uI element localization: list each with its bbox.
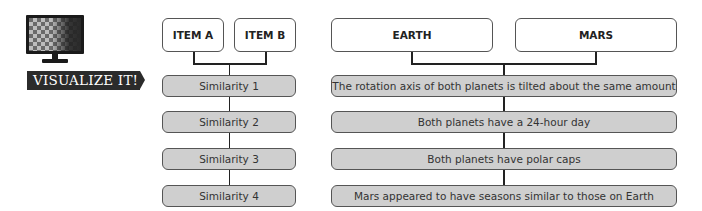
similarity-box: Similarity 2 [162, 111, 296, 133]
monitor-base [42, 59, 68, 63]
visualize-it-banner: VISUALIZE IT! [27, 71, 140, 90]
item-a-box: ITEM A [162, 18, 224, 52]
earth-mars-similarity: Both planets have polar caps [331, 148, 677, 170]
mars-box: MARS [515, 18, 677, 52]
similarity-box: Similarity 3 [162, 148, 296, 170]
earth-mars-similarity: Both planets have a 24-hour day [331, 111, 677, 133]
similarity-box: Similarity 1 [162, 75, 296, 97]
banner-arrow-tip [140, 71, 145, 89]
monitor-icon [26, 15, 84, 54]
monitor-screen [29, 18, 81, 51]
earth-mars-similarity: Mars appeared to have seasons similar to… [331, 185, 677, 207]
earth-mars-similarity: The rotation axis of both planets is til… [331, 75, 677, 97]
similarity-box: Similarity 4 [162, 185, 296, 207]
earth-box: EARTH [331, 18, 493, 52]
item-b-box: ITEM B [234, 18, 296, 52]
